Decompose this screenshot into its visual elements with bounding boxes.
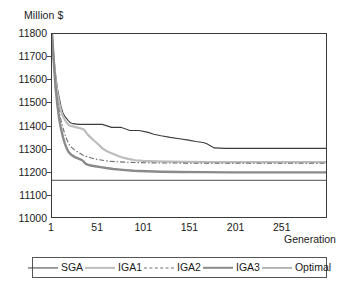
y-axis-label: Million $ [24,9,63,21]
legend-item: IGA2 [144,262,201,273]
x-tick-label: 151 [169,221,209,233]
x-tick-label: 201 [216,221,256,233]
legend-label: IGA2 [177,262,201,273]
y-tick-label: 11200 [3,166,47,178]
chart-figure: Million $ 118001170011600115001140011300… [0,0,350,287]
x-tick-label: 101 [123,221,163,233]
x-axis-label: Generation [284,233,336,245]
legend-item: IGA1 [85,262,142,273]
legend-key-swatch [28,263,58,273]
legend-label: SGA [61,262,83,273]
legend-label: IGA3 [236,262,260,273]
legend-key-swatch [262,263,292,273]
legend-item: Optimal [262,262,331,273]
y-tick-label: 11500 [3,96,47,108]
chart-legend: SGAIGA1IGA2IGA3Optimal [32,257,327,278]
legend-item: IGA3 [203,262,260,273]
series-line [52,34,326,162]
legend-item: SGA [28,262,83,273]
y-tick-label: 11700 [3,50,47,62]
plot-area [51,33,327,218]
y-tick-label: 11100 [3,189,47,201]
y-tick-label: 11400 [3,120,47,132]
x-tick-label: 251 [262,221,302,233]
series-line [52,34,326,163]
y-tick-label: 11800 [3,27,47,39]
series-canvas [52,34,326,217]
series-line [52,34,326,172]
legend-label: Optimal [295,262,331,273]
series-line [52,34,326,148]
legend-key-swatch [85,263,115,273]
legend-key-swatch [203,263,233,273]
y-tick-label: 11300 [3,143,47,155]
x-tick-label: 51 [77,221,117,233]
legend-key-swatch [144,263,174,273]
x-tick-label: 1 [31,221,71,233]
y-tick-label: 11600 [3,73,47,85]
legend-label: IGA1 [118,262,142,273]
